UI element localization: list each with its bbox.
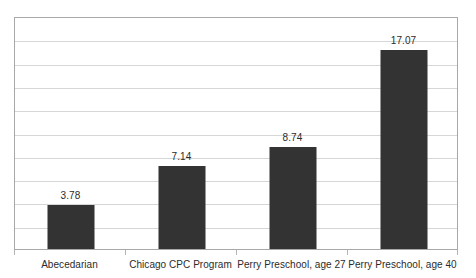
bar-slot: 7.14 (126, 18, 237, 249)
category-slot: Perry Preschool, age 27 (236, 250, 347, 278)
category-label: Abecedarian (14, 259, 125, 270)
category-axis: AbecedarianChicago CPC ProgramPerry Pres… (14, 250, 458, 278)
axis-tick (457, 250, 458, 255)
bar[interactable] (158, 166, 205, 249)
category-slot: Chicago CPC Program (125, 250, 236, 278)
category-label: Perry Preschool, age 40 (347, 259, 458, 270)
bar-slot: 17.07 (348, 18, 459, 249)
category-slot: Abecedarian (14, 250, 125, 278)
axis-tick (236, 250, 237, 255)
category-label: Chicago CPC Program (125, 259, 236, 270)
bar[interactable] (269, 147, 316, 249)
bar[interactable] (380, 50, 427, 249)
bars-layer: 3.787.148.7417.07 (15, 18, 457, 249)
category-slot: Perry Preschool, age 40 (347, 250, 458, 278)
bar-value-label: 7.14 (172, 151, 192, 162)
axis-tick (125, 250, 126, 255)
axis-tick (14, 250, 15, 255)
bar-value-label: 3.78 (61, 190, 81, 201)
bar-value-label: 17.07 (391, 35, 417, 46)
category-label: Perry Preschool, age 27 (236, 259, 347, 270)
bar-slot: 3.78 (15, 18, 126, 249)
bar-slot: 8.74 (237, 18, 348, 249)
bar-value-label: 8.74 (283, 132, 303, 143)
plot-area: 3.787.148.7417.07 (14, 17, 458, 250)
bar-chart: 3.787.148.7417.07 AbecedarianChicago CPC… (0, 0, 476, 278)
axis-tick (347, 250, 348, 255)
bar[interactable] (47, 205, 94, 249)
